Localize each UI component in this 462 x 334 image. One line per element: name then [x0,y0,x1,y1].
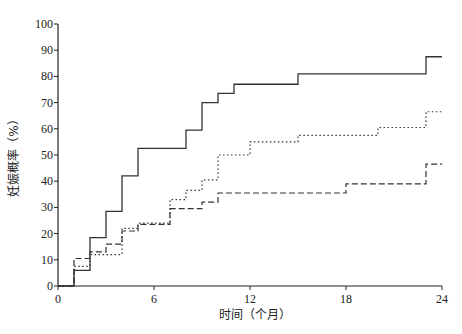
y-tick-label: 70 [41,96,53,110]
y-axis-label: 妊娠概率（%） [6,113,21,196]
y-tick-label: 100 [35,17,53,31]
y-tick-label: 10 [41,253,53,267]
x-tick-label: 12 [244,292,256,306]
x-tick-label: 18 [340,292,352,306]
x-tick-label: 6 [151,292,157,306]
series-dashed-line [58,164,442,286]
y-tick-label: 30 [41,200,53,214]
x-axis: 06121824 [55,286,448,306]
y-tick-label: 50 [41,148,53,162]
x-axis-label: 时间（个月） [219,308,291,322]
y-tick-label: 90 [41,43,53,57]
y-tick-label: 20 [41,227,53,241]
series-dotted-line [58,112,442,286]
y-tick-label: 0 [47,279,53,293]
y-axis: 0102030405060708090100 [35,17,58,293]
x-tick-label: 0 [55,292,61,306]
series-group [58,57,442,286]
x-tick-label: 24 [436,292,448,306]
series-solid-line [58,57,442,286]
y-tick-label: 60 [41,122,53,136]
y-tick-label: 80 [41,69,53,83]
y-tick-label: 40 [41,174,53,188]
kaplan-meier-chart: 0102030405060708090100 06121824 时间（个月） 妊… [0,0,462,334]
